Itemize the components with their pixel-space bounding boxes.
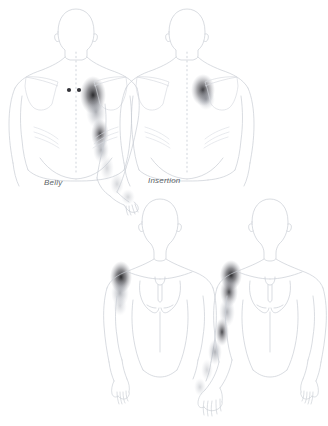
figure-anterior-belly bbox=[104, 199, 217, 404]
figure-posterior-insertion bbox=[120, 9, 254, 186]
figure-label-insertion: Insertion bbox=[148, 176, 180, 185]
referral-pattern-anterior-insertion bbox=[194, 260, 242, 396]
trigger-point-diagram bbox=[0, 0, 328, 426]
body-outline-posterior-belly bbox=[9, 9, 137, 186]
trigger-points-belly bbox=[67, 88, 81, 92]
figure-anterior-insertion bbox=[194, 199, 326, 416]
referral-pattern-anterior-belly bbox=[110, 261, 132, 316]
hand-anterior-belly bbox=[112, 379, 130, 404]
figure-label-belly: Belly bbox=[44, 178, 62, 187]
hand-anterior-insertion-right bbox=[301, 379, 319, 404]
figure-posterior-belly bbox=[9, 9, 139, 215]
